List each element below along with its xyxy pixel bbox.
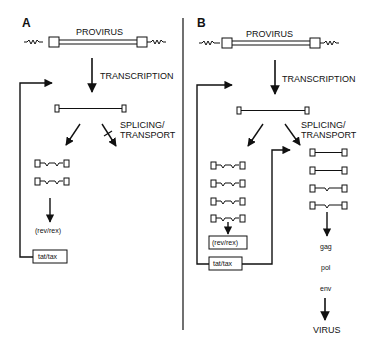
panel-b-product-env: env (320, 285, 332, 292)
panel-b: B PROVIRUS TRANSCRIPTION SPLICING/ TRANS… (197, 16, 357, 335)
panel-a-transcript-icon (55, 105, 126, 112)
panel-b-unspliced-mrna-icon (310, 149, 347, 156)
panel-b-tat-tax-label: tat/tax (213, 260, 233, 267)
panel-b-spliced-mrna-icon (211, 180, 245, 187)
panel-a-tat-tax-label: tat/tax (38, 253, 58, 260)
panel-b-unspliced-mrna-icon (310, 167, 347, 174)
panel-a-transcription-label: TRANSCRIPTION (100, 71, 174, 81)
panel-b-provirus-label: PROVIRUS (246, 29, 293, 39)
panel-b-transcription-label: TRANSCRIPTION (282, 74, 356, 84)
panel-b-spliced-mrna-icon (211, 198, 245, 205)
panel-a-spliced-mrna-icon (35, 178, 69, 185)
panel-a: A PROVIRUS TRANSCRIPTION SPLICING/ TRANS… (20, 16, 176, 263)
panel-b-transcript-icon (237, 107, 309, 114)
retrovirus-gene-expression-diagram: A PROVIRUS TRANSCRIPTION SPLICING/ TRANS… (0, 0, 371, 348)
panel-b-provirus-icon (199, 38, 339, 48)
panel-b-product-pol: pol (321, 264, 331, 272)
panel-b-label: B (197, 16, 206, 30)
panel-b-splicing-label-2: TRANSPORT (301, 130, 357, 140)
panel-a-regulator-label: (rev/rex) (35, 227, 61, 235)
panel-b-spliced-mrna-icon (211, 162, 245, 169)
panel-b-product-gag: gag (320, 243, 332, 251)
panel-b-virus-label: VIRUS (313, 325, 341, 335)
panel-b-splicing-label-1: SPLICING/ (301, 120, 346, 130)
panel-b-single-spliced-mrna-icon (310, 202, 347, 209)
panel-a-splicing-label-2: TRANSPORT (120, 130, 176, 140)
panel-a-label: A (22, 16, 31, 30)
panel-a-spliced-mrna-icon (35, 160, 69, 167)
panel-a-splicing-label-1: SPLICING/ (120, 120, 165, 130)
panel-b-spliced-mrna-icon (211, 215, 245, 222)
panel-b-rev-rex-label: (rev/rex) (212, 239, 238, 247)
panel-a-provirus-label: PROVIRUS (76, 27, 123, 37)
panel-a-provirus-icon (24, 37, 166, 47)
panel-b-rev-rex-loop-arrow (241, 150, 290, 264)
panel-b-single-spliced-mrna-icon (310, 185, 347, 192)
panel-a-block-mark (104, 131, 112, 136)
panel-a-spliced-arrow (66, 124, 80, 145)
panel-b-unspliced-arrow (285, 124, 300, 145)
panel-b-spliced-arrow (248, 124, 263, 146)
panel-a-blocked-unspliced-arrow (102, 124, 116, 146)
